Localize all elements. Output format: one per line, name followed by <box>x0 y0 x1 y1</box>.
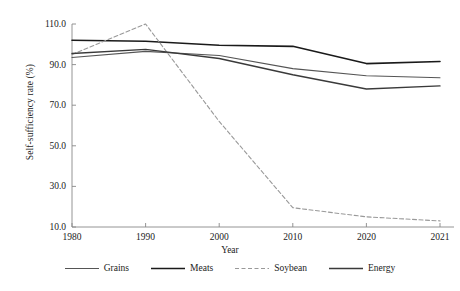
legend-swatch-meats <box>151 265 185 272</box>
legend-label: Grains <box>104 263 129 273</box>
legend-item-soybean[interactable]: Soybean <box>235 263 307 273</box>
chart-container: Self-sufficiency rate (%) 110.090.070.05… <box>0 0 460 291</box>
y-axis-tick-label: 70.0 <box>32 100 66 110</box>
legend-swatch-grains <box>65 265 99 272</box>
x-axis-tick-label: 2021 <box>418 232 460 242</box>
y-axis-tick-label: 90.0 <box>32 60 66 70</box>
y-axis-tick-label: 50.0 <box>32 141 66 151</box>
legend-label: Meats <box>190 263 213 273</box>
legend-swatch-soybean <box>235 265 269 272</box>
chart-legend: GrainsMeatsSoybeanEnergy <box>0 263 460 273</box>
series-line-soybean <box>72 24 440 221</box>
legend-swatch-energy <box>329 265 363 272</box>
legend-item-grains[interactable]: Grains <box>65 263 129 273</box>
x-axis-tick-label: 2020 <box>344 232 388 242</box>
legend-label: Energy <box>368 263 395 273</box>
series-line-energy <box>72 49 440 89</box>
x-axis-tick-label: 2010 <box>271 232 315 242</box>
legend-label: Soybean <box>274 263 307 273</box>
x-axis-tick-label: 1980 <box>50 232 94 242</box>
legend-item-meats[interactable]: Meats <box>151 263 213 273</box>
x-axis-tick-label: 1990 <box>124 232 168 242</box>
legend-item-energy[interactable]: Energy <box>329 263 395 273</box>
y-axis-title: Self-sufficiency rate (%) <box>25 22 35 202</box>
x-axis-tick-label: 2000 <box>197 232 241 242</box>
y-axis-tick-label: 110.0 <box>32 19 66 29</box>
y-axis-tick-label: 10.0 <box>32 222 66 232</box>
series-line-meats <box>72 40 440 63</box>
y-axis-tick-label: 30.0 <box>32 181 66 191</box>
x-axis-title: Year <box>0 245 460 255</box>
series-line-grains <box>72 51 440 77</box>
